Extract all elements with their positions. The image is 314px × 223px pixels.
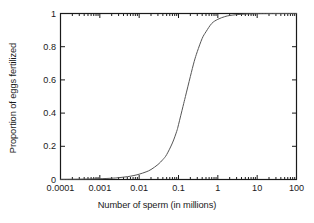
chart-figure: Proportion of eggs fertilized 00.20.40.6… — [0, 0, 314, 223]
x-axis-title: Number of sperm (in millions) — [0, 200, 314, 210]
fertilization-curve-line — [61, 14, 297, 180]
data-series-group — [61, 14, 297, 180]
tick-marks — [61, 14, 297, 180]
plot-area — [0, 0, 314, 223]
axis-frame — [61, 14, 297, 180]
